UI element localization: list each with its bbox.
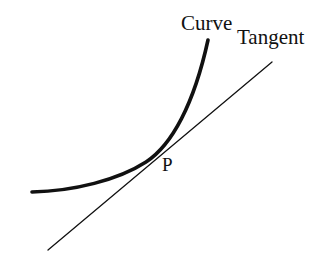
- figure-canvas: Curve Tangent P: [0, 0, 322, 256]
- tangency-point-label: P: [162, 155, 173, 174]
- curve-label: Curve: [181, 13, 232, 34]
- tangent-label: Tangent: [237, 27, 304, 48]
